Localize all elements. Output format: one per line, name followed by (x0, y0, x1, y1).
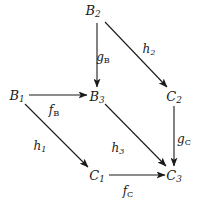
commutative-diagram: B2B1B3C2C1C3 gBh2fBh1h3gCfC (0, 0, 201, 206)
node-base: B (85, 3, 95, 18)
node-c1: C1 (89, 169, 105, 182)
edge-label-base: h (112, 141, 120, 155)
node-subscript: 2 (176, 95, 182, 105)
node-base: C (166, 89, 176, 104)
edge-label-subscript: C (185, 137, 191, 147)
node-c3: C3 (166, 169, 182, 182)
node-base: C (89, 168, 99, 183)
edge-label-subscript: 1 (41, 144, 46, 154)
edge-label-base: h (143, 42, 151, 56)
edge-label-subscript: B (104, 55, 110, 65)
node-base: C (166, 168, 176, 183)
node-b3: B3 (89, 90, 104, 103)
node-base: B (9, 88, 19, 103)
arrow-h3 (105, 104, 166, 166)
node-b2: B2 (85, 4, 100, 17)
node-base: B (89, 89, 99, 104)
edge-label-base: g (177, 132, 185, 146)
node-b1: B1 (9, 89, 24, 102)
edge-label-h1: h1 (34, 140, 47, 152)
arrow-h2 (105, 22, 167, 87)
edge-label-base: h (34, 139, 42, 153)
node-subscript: 1 (19, 94, 25, 104)
node-c2: C2 (166, 90, 182, 103)
edge-label-subscript: C (127, 189, 133, 199)
node-subscript: 2 (95, 9, 101, 19)
node-subscript: 1 (99, 174, 105, 184)
edge-label-h2: h2 (143, 43, 156, 55)
node-subscript: 3 (99, 95, 105, 105)
edge-label-gc: gC (177, 133, 191, 145)
node-subscript: 3 (176, 174, 182, 184)
edge-label-subscript: B (53, 108, 59, 118)
edge-label-gb: gB (96, 51, 110, 63)
edge-label-base: g (96, 50, 104, 64)
edge-label-h3: h3 (112, 142, 125, 154)
edge-label-subscript: 2 (150, 47, 155, 57)
edge-label-subscript: 3 (119, 146, 124, 156)
edge-label-fc: fC (123, 185, 134, 197)
edge-label-fb: fB (49, 104, 59, 116)
